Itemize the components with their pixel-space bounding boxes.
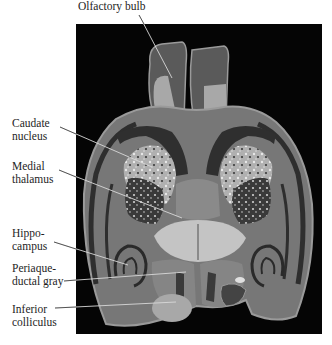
- label-hippocampus: Hippo- campus: [12, 227, 47, 252]
- brain-figure: Olfactory bulb Caudate nucleus Medial th…: [0, 0, 332, 345]
- label-periaqueductal-gray: Periaque- ductal gray: [12, 262, 63, 287]
- label-inferior-colliculus: Inferior colliculus: [12, 303, 57, 328]
- label-medial-thalamus: Medial thalamus: [12, 160, 54, 185]
- label-olfactory-bulb: Olfactory bulb: [78, 0, 145, 13]
- brain-mri-illustration: [76, 24, 322, 334]
- label-caudate-nucleus: Caudate nucleus: [12, 117, 50, 142]
- mri-image-panel: [76, 24, 322, 334]
